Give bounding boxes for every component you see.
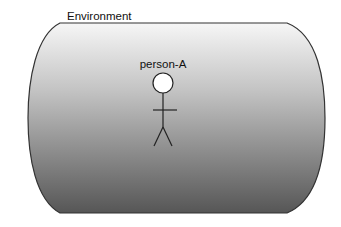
environment-label: Environment bbox=[67, 10, 132, 22]
actor-head-icon bbox=[153, 73, 173, 93]
diagram-canvas: Environment person-A bbox=[0, 0, 341, 227]
environment-shape bbox=[28, 23, 325, 213]
actor-label: person-A bbox=[140, 58, 187, 70]
environment-container[interactable]: Environment bbox=[28, 10, 325, 213]
